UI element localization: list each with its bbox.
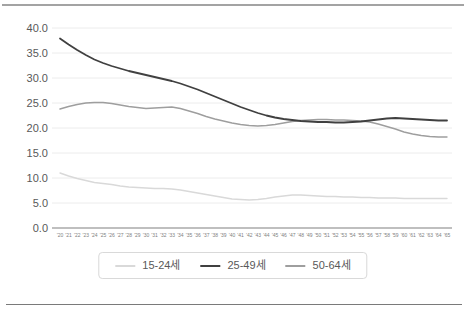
x-tick-label: '61 [409,232,416,238]
series-line-50-64세 [60,103,447,138]
x-tick-label: '64 [435,232,442,238]
x-tick-label: '65 [444,232,451,238]
x-tick-label: '21 [65,232,72,238]
legend-item-25-49세: 25-49세 [200,260,265,271]
x-tick-label: '34 [177,232,184,238]
document-page: 0.05.010.015.020.025.030.035.040.0 '20'2… [0,0,466,313]
x-tick-label: '51 [323,232,330,238]
legend-line-swatch [200,265,220,267]
x-tick-label: '39 [220,232,227,238]
x-tick-label: '44 [263,232,270,238]
legend-line-swatch [286,265,306,267]
x-tick-label: '35 [186,232,193,238]
legend-label: 25-49세 [227,260,265,271]
legend-line-swatch [115,265,135,267]
x-tick-label: '33 [169,232,176,238]
x-tick-label: '38 [212,232,219,238]
y-axis-tick-labels: 0.05.010.015.020.025.030.035.040.0 [27,22,48,234]
y-tick-label: 30.0 [27,72,48,84]
x-tick-label: '47 [289,232,296,238]
x-tick-label: '29 [134,232,141,238]
series-line-15-24세 [60,173,447,200]
x-tick-label: '57 [375,232,382,238]
x-tick-label: '52 [332,232,339,238]
x-tick-label: '36 [194,232,201,238]
data-series-lines [60,39,447,201]
x-tick-label: '23 [83,232,90,238]
x-tick-label: '45 [272,232,279,238]
y-tick-label: 35.0 [27,47,48,59]
x-tick-label: '41 [237,232,244,238]
legend-item-50-64세: 50-64세 [286,260,351,271]
x-tick-label: '30 [143,232,150,238]
x-tick-label: '55 [358,232,365,238]
x-tick-label: '59 [392,232,399,238]
x-tick-label: '63 [427,232,434,238]
y-tick-label: 10.0 [27,172,48,184]
x-tick-label: '43 [255,232,262,238]
y-tick-label: 40.0 [27,22,48,34]
x-tick-label: '53 [341,232,348,238]
y-tick-label: 15.0 [27,147,48,159]
x-tick-label: '27 [117,232,124,238]
x-tick-label: '50 [315,232,322,238]
bottom-divider-line [6,304,462,305]
chart-legend: 15-24세25-49세50-64세 [98,252,367,279]
x-tick-label: '40 [229,232,236,238]
x-tick-label: '25 [100,232,107,238]
x-tick-label: '46 [280,232,287,238]
y-tick-label: 25.0 [27,97,48,109]
legend-item-15-24세: 15-24세 [115,260,180,271]
legend-label: 50-64세 [313,260,351,271]
x-tick-label: '62 [418,232,425,238]
x-axis-tick-labels: '20'21'22'23'24'25'26'27'28'29'30'31'32'… [57,232,451,238]
x-tick-label: '22 [74,232,81,238]
x-tick-label: '24 [91,232,98,238]
x-tick-label: '20 [57,232,64,238]
series-line-25-49세 [60,39,447,123]
x-tick-label: '54 [349,232,356,238]
y-tick-label: 0.0 [33,222,48,234]
x-tick-label: '37 [203,232,210,238]
x-tick-label: '49 [306,232,313,238]
x-tick-label: '31 [151,232,158,238]
age-group-share-line-chart[interactable]: 0.05.010.015.020.025.030.035.040.0 '20'2… [0,0,466,248]
x-tick-label: '58 [384,232,391,238]
x-tick-label: '42 [246,232,253,238]
x-tick-label: '56 [366,232,373,238]
x-tick-label: '28 [126,232,133,238]
x-tick-label: '60 [401,232,408,238]
y-tick-label: 20.0 [27,122,48,134]
x-tick-label: '48 [298,232,305,238]
y-tick-label: 5.0 [33,197,48,209]
legend-label: 15-24세 [142,260,180,271]
x-tick-label: '26 [108,232,115,238]
x-tick-label: '32 [160,232,167,238]
gridlines [52,28,452,203]
